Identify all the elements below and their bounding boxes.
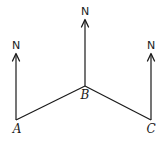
north-arrow-a: N	[12, 39, 20, 120]
north-arrow-b: N	[81, 5, 89, 86]
north-label-a: N	[12, 39, 20, 52]
segment-b-c	[85, 86, 151, 120]
north-label-c: N	[147, 39, 155, 52]
point-label-b: B	[80, 88, 90, 102]
north-arrow-c: N	[147, 39, 155, 120]
point-label-a: A	[12, 122, 22, 136]
segment-a-b	[16, 86, 85, 120]
point-label-c: C	[146, 122, 155, 136]
bearing-diagram: N N N A B C	[0, 0, 166, 141]
north-label-b: N	[81, 5, 89, 18]
